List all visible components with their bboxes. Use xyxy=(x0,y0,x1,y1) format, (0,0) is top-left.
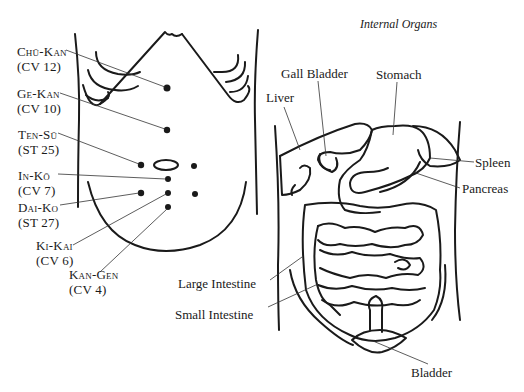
label-liver: Liver xyxy=(266,90,294,105)
point-name: Ki-Kai xyxy=(36,238,73,253)
label-ge-kan: Ge-Kan (CV 10) xyxy=(17,86,61,116)
point-code: (CV 4) xyxy=(69,282,119,297)
point-code: (CV 6) xyxy=(36,253,73,268)
leader-lines-left xyxy=(58,50,167,272)
torso-outline xyxy=(75,30,258,251)
label-dai-ko: Dai-Ko (ST 27) xyxy=(18,200,59,230)
point-code: (CV 7) xyxy=(18,183,55,198)
label-gall-bladder: Gall Bladder xyxy=(281,66,348,81)
point-name: Ge-Kan xyxy=(17,86,61,101)
label-kan-gen: Kan-Gen (CV 4) xyxy=(69,267,119,297)
label-stomach: Stomach xyxy=(376,67,422,82)
organs-drawing xyxy=(275,122,460,353)
point-code: (ST 27) xyxy=(18,215,59,230)
navel xyxy=(154,160,178,170)
point-name: Dai-Ko xyxy=(18,200,59,215)
point-name: Ten-Sū xyxy=(18,127,59,142)
point-code: (CV 10) xyxy=(17,101,61,116)
point-code: (ST 25) xyxy=(18,142,59,157)
label-bladder: Bladder xyxy=(411,365,452,380)
anatomy-illustration xyxy=(0,0,524,392)
figure-title: Internal Organs xyxy=(360,17,437,32)
label-large-intestine: Large Intestine xyxy=(178,276,256,291)
point-name: Kan-Gen xyxy=(69,267,119,282)
label-ten-su: Ten-Sū (ST 25) xyxy=(18,127,59,157)
label-ki-kai: Ki-Kai (CV 6) xyxy=(36,238,73,268)
label-chu-kan: Chū-Kan (CV 12) xyxy=(17,44,67,74)
label-in-ko: In-Kō (CV 7) xyxy=(18,168,55,198)
point-code: (CV 12) xyxy=(17,59,67,74)
label-small-intestine: Small Intestine xyxy=(175,307,253,322)
point-name: In-Kō xyxy=(18,168,55,183)
label-spleen: Spleen xyxy=(475,155,510,170)
point-name: Chū-Kan xyxy=(17,44,67,59)
acupoints xyxy=(138,85,198,211)
label-pancreas: Pancreas xyxy=(462,181,508,196)
